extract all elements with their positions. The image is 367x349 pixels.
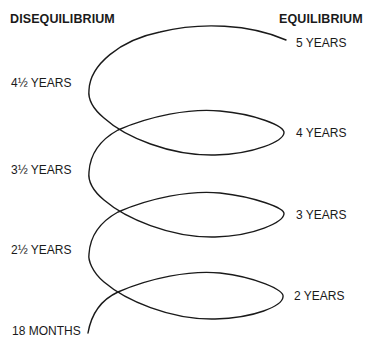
label-5-years: 5 YEARS: [296, 36, 346, 50]
label-3-half-years: 3½ YEARS: [11, 163, 71, 177]
label-4-half-years: 4½ YEARS: [11, 76, 71, 90]
label-3-years: 3 YEARS: [296, 208, 346, 222]
label-2-years: 2 YEARS: [294, 289, 344, 303]
developmental-spiral-diagram: DISEQUILIBRIUM EQUILIBRIUM 5 YEARS 4 YEA…: [0, 0, 367, 349]
label-18-months: 18 MONTHS: [12, 324, 81, 338]
label-2-half-years: 2½ YEARS: [11, 243, 71, 257]
label-4-years: 4 YEARS: [296, 126, 346, 140]
